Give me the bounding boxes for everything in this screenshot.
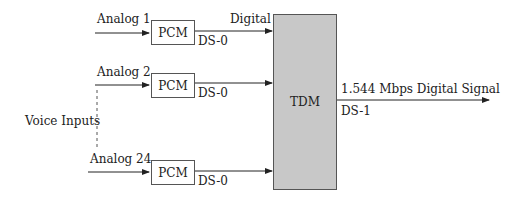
pcm-block-24: PCM — [151, 160, 195, 185]
output-signal-label: 1.544 Mbps Digital Signal — [341, 82, 500, 96]
digital-label: Digital — [230, 12, 271, 26]
ds0-label-24: DS-0 — [198, 174, 228, 188]
input-label-analog-1: Analog 1 — [97, 12, 151, 26]
ds0-label-1: DS-0 — [198, 34, 228, 48]
tdm-multiplexer: TDM — [273, 14, 337, 190]
input-label-analog-2: Analog 2 — [97, 65, 151, 79]
input-label-analog-24: Analog 24 — [90, 152, 151, 166]
ds1-label: DS-1 — [341, 104, 371, 118]
pcm-block-1: PCM — [151, 20, 195, 45]
voice-inputs-label: Voice Inputs — [25, 114, 100, 128]
pcm-block-2: PCM — [151, 73, 195, 98]
ds0-label-2: DS-0 — [198, 86, 228, 100]
connector-lines — [0, 0, 510, 201]
